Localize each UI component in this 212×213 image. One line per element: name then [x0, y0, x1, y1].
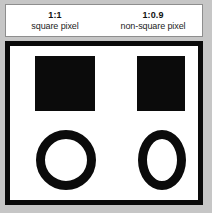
legend-column-non-square-pixel: 1:0.9 non-square pixel — [104, 5, 202, 36]
legend-label-non-square: non-square pixel — [121, 21, 186, 31]
square-shape — [35, 56, 95, 111]
legend-header: 1:1 square pixel 1:0.9 non-square pixel — [5, 4, 203, 37]
legend-ratio-square: 1:1 — [48, 10, 61, 20]
illustration-panel — [10, 46, 198, 200]
pixel-aspect-ratio-figure: 1:1 square pixel 1:0.9 non-square pixel — [0, 0, 212, 213]
circle-shape — [36, 130, 96, 190]
legend-ratio-non-square: 1:0.9 — [142, 10, 163, 20]
legend-column-square-pixel: 1:1 square pixel — [6, 5, 104, 36]
ellipse-shape — [138, 130, 186, 190]
illustration-panel-frame — [5, 41, 203, 205]
rectangle-shape — [137, 56, 185, 111]
legend-label-square: square pixel — [31, 21, 78, 31]
